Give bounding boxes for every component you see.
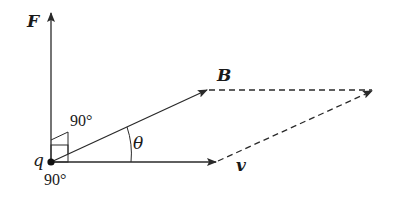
label-B: B: [217, 67, 231, 84]
lorentz-force-diagram: F B v q θ 90° 90°: [0, 0, 397, 198]
label-90-upper: 90°: [70, 113, 92, 129]
label-v: v: [236, 157, 246, 174]
charge-q-dot: [47, 158, 54, 165]
label-theta: θ: [133, 135, 143, 152]
label-90-lower: 90°: [44, 172, 66, 188]
diagram-canvas: [0, 0, 397, 198]
right-angle-marker-lower: [51, 145, 68, 162]
theta-arc: [127, 127, 131, 162]
dashed-line-v-parallel: [218, 91, 372, 161]
label-q: q: [33, 152, 44, 169]
label-F: F: [27, 13, 39, 30]
right-angle-marker-upper: [51, 132, 68, 154]
